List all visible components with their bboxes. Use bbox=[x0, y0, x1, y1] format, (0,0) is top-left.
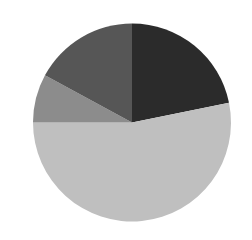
pie-chart bbox=[0, 0, 252, 240]
